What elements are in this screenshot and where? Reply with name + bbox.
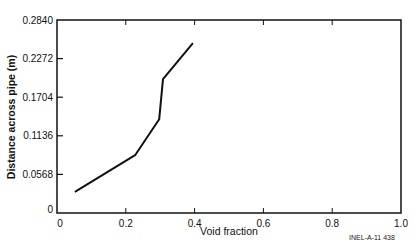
plot-frame [57,20,401,213]
x-tick-label: 0.2 [119,218,133,229]
y-tick-label: 0.2272 [22,53,53,64]
y-tick-label: 0.1136 [23,130,53,141]
y-tick-label: 0 [47,204,53,215]
y-tick-label: 0.0568 [22,169,53,180]
line-chart: 00.20.40.60.81.0 00.05680.11360.17040.22… [0,0,419,247]
x-tick-label: 0.6 [256,218,270,229]
x-tick-label: 0 [57,218,63,229]
x-tick-label: 1.0 [394,218,408,229]
figure-code-label: INEL-A-11 438 [349,234,395,241]
y-tick-label: 0.1704 [22,92,53,103]
y-tick-label: 0.2840 [22,15,53,26]
x-tick-label: 0.8 [325,218,339,229]
data-series-line [75,43,193,192]
x-axis-title: Void fraction [200,225,258,237]
y-axis-title: Distance across pipe (m) [5,55,17,179]
x-axis-ticks [126,20,332,213]
y-axis-ticks [57,59,63,175]
y-axis-tick-labels: 00.05680.11360.17040.22720.2840 [22,15,53,216]
